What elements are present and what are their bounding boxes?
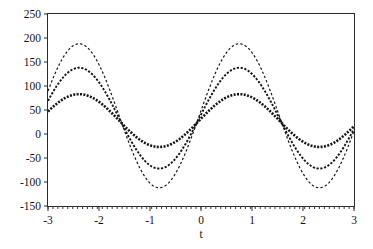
x-axis-tick-labels: -3-2-10123 [43,214,357,226]
y-axis-tick-labels: 250200150100500-50-100-150 [20,8,41,212]
x-tick-label: -3 [43,214,53,226]
plot-frame-group [48,14,355,207]
y-tick-label: 150 [24,56,42,68]
x-axis-title: t [199,228,203,240]
x-tick-label: 2 [300,214,306,226]
y-tick-label: 50 [30,104,42,116]
y-tick-label: 100 [24,80,42,92]
plot-canvas: 250200150100500-50-100-150 -3-2-10123 t [0,0,373,249]
x-tick-label: -1 [145,214,155,226]
plot-frame [48,14,355,207]
x-tick-label: 1 [249,214,255,226]
y-tick-label: 200 [24,32,42,44]
x-tick-label: 0 [198,214,204,226]
y-tick-label: 0 [35,128,41,140]
y-tick-label: -150 [20,200,41,212]
y-tick-label: -100 [20,176,41,188]
y-tick-label: 250 [24,8,42,20]
chart-figure: 250200150100500-50-100-150 -3-2-10123 t [0,0,373,249]
y-tick-label: -50 [26,152,42,164]
x-tick-label: -2 [94,214,104,226]
x-tick-label: 3 [351,214,357,226]
